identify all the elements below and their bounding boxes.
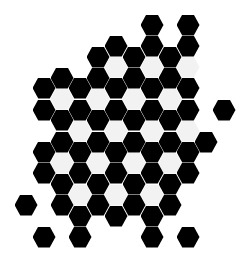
hexagon-tile-light <box>69 121 92 142</box>
hexagon-tile-light <box>177 121 200 142</box>
hexagon-tile-dark <box>141 227 164 248</box>
hexagon-tile-dark <box>141 15 164 36</box>
hexagon-tile-dark <box>177 15 200 36</box>
hexagon-tile-dark <box>141 206 164 227</box>
hexagon-tile-light <box>159 89 182 110</box>
hexagon-tile-dark <box>33 227 56 248</box>
hexagon-tile-dark <box>105 36 128 57</box>
hexagon-tile-dark <box>87 174 110 195</box>
hexagon-tile-dark <box>69 227 92 248</box>
hexagon-tile-dark <box>177 227 200 248</box>
hexagon-tile-dark <box>105 206 128 227</box>
hexagon-tile-light <box>141 121 164 142</box>
hexagon-tile-dark <box>51 174 74 195</box>
hexagon-tile-dark <box>159 174 182 195</box>
hexagon-tile-dark <box>123 174 146 195</box>
hexagon-tile-dark <box>141 36 164 57</box>
hexagon-tile-light <box>123 89 146 110</box>
hexagon-tile-light <box>51 89 74 110</box>
hexagon-tile-light <box>105 121 128 142</box>
hexagon-pattern-canvas: Hexagon tile pattern <box>0 0 242 261</box>
hexagon-tile-dark <box>177 36 200 57</box>
hexagon-tile-dark <box>15 195 38 216</box>
hexagon-tile-dark <box>213 100 236 121</box>
hexagon-tile-dark <box>69 206 92 227</box>
hexagon-tile-light <box>87 89 110 110</box>
